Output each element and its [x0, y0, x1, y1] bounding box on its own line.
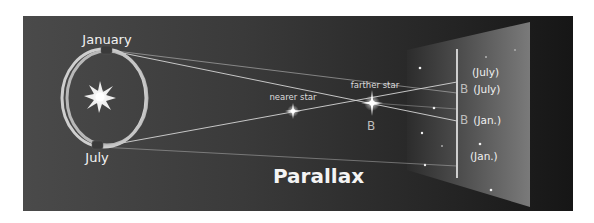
- screen-text: (Jan.): [473, 114, 501, 126]
- nearer-star-icon: [285, 103, 301, 119]
- sight-lines: [100, 50, 457, 166]
- sun-icon: [84, 81, 116, 113]
- july-label: July: [85, 151, 108, 164]
- january-label: January: [82, 33, 131, 46]
- screen-text: (July): [473, 83, 500, 95]
- screen-mark-b: B: [460, 82, 468, 96]
- screen-label-july-near: (July): [472, 67, 499, 78]
- earth-july-icon: [92, 141, 103, 149]
- screen-label-b-july: B (July): [460, 80, 500, 96]
- screen-mark-b: B: [460, 113, 468, 127]
- earth-january-icon: [101, 46, 112, 54]
- farther-star-label: farther star: [351, 81, 399, 90]
- screen-label-jan-near: (Jan.): [470, 151, 498, 162]
- farther-star-mark: B: [367, 120, 375, 132]
- screen-label-b-jan: B (Jan.): [460, 111, 501, 127]
- nearer-star-label: nearer star: [269, 93, 316, 102]
- farther-star-icon: [361, 90, 383, 116]
- diagram-title: Parallax: [273, 166, 364, 186]
